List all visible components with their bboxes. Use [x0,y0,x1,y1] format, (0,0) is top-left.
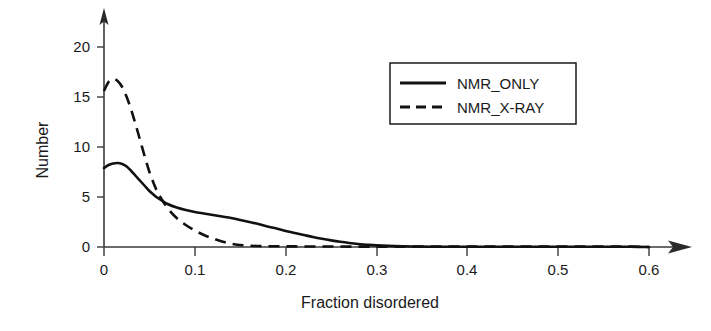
chart-legend: NMR_ONLY NMR_X-RAY [390,63,576,124]
x-axis-title: Fraction disordered [301,294,439,311]
x-tick-label-0.4: 0.4 [457,261,478,278]
x-tick-label-0.6: 0.6 [639,261,660,278]
y-tick-label-20: 20 [73,38,90,55]
x-tick-label-0.1: 0.1 [185,261,206,278]
y-tick-label-0: 0 [82,238,90,255]
x-tick-label-0: 0 [100,261,108,278]
x-tick-label-0.5: 0.5 [548,261,569,278]
y-tick-label-5: 5 [82,188,90,205]
legend-label-nmr-xray: NMR_X-RAY [457,99,544,116]
legend-label-nmr-only: NMR_ONLY [457,75,539,92]
x-tick-label-0.2: 0.2 [276,261,297,278]
chart-canvas: 20 15 10 5 0 0 0.1 0.2 0.3 0.4 0.5 0.6 F… [0,0,711,331]
y-axis-title: Number [34,121,51,179]
y-tick-label-15: 15 [73,88,90,105]
x-tick-label-0.3: 0.3 [367,261,388,278]
y-tick-label-10: 10 [73,138,90,155]
chart-figure: 20 15 10 5 0 0 0.1 0.2 0.3 0.4 0.5 0.6 F… [0,0,711,331]
